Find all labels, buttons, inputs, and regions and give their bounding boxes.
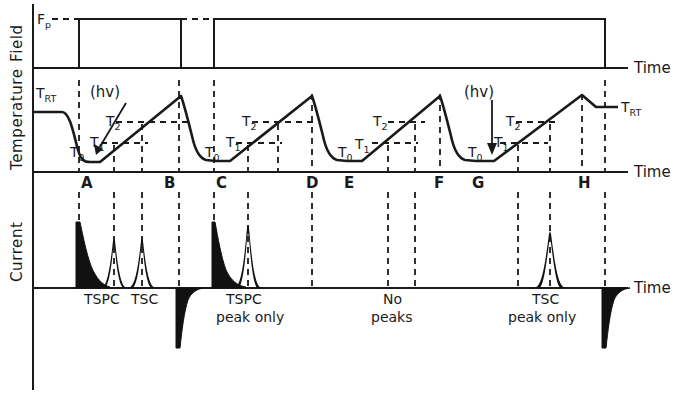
current-annotation-no-peaks-line2: peaks <box>371 309 412 325</box>
figure-root: Fp Time Field <box>0 0 696 396</box>
current-annotation-tspc-only-line1: TSPC <box>225 291 262 307</box>
temperature-symbol-t1-4: T1 <box>493 134 509 153</box>
stage-marker-g: G <box>472 174 484 192</box>
current-vertical-markers <box>79 192 605 288</box>
temperature-curve <box>33 95 618 162</box>
timing-diagram-svg: Fp Time Field <box>0 0 696 396</box>
temperature-trt-label-right: TRT <box>620 99 641 118</box>
field-axis-label: Field <box>8 24 26 62</box>
temperature-symbol-t1-2: T1 <box>225 134 241 153</box>
stage-marker-row: A B C D E F G H <box>81 174 591 192</box>
temperature-symbol-t1-3: T1 <box>354 136 370 155</box>
temperature-panel: (hv) (hv) TRT TRT T0 T1 T2 <box>8 68 671 181</box>
temperature-symbol-t0-1: T0 <box>69 144 85 163</box>
field-time-label: Time <box>633 59 671 77</box>
photon-label-2: (hv) <box>464 83 494 101</box>
current-spike-end <box>602 288 630 348</box>
field-fp-label: Fp <box>37 11 51 30</box>
temperature-symbol-t2-3: T2 <box>372 113 388 132</box>
stage-marker-b: B <box>164 174 175 192</box>
current-peak-a <box>76 222 110 288</box>
temperature-trt-label-left: TRT <box>35 85 56 104</box>
current-annotation-tsc-only-line1: TSC <box>531 291 559 307</box>
temperature-symbol-t2-2: T2 <box>241 113 257 132</box>
field-pulse-1 <box>79 19 181 68</box>
current-spike-b <box>176 288 204 348</box>
temperature-time-label: Time <box>633 163 671 181</box>
current-axis-label: Current <box>8 221 26 282</box>
photon-label-1: (hv) <box>90 83 120 101</box>
stage-marker-f: F <box>434 174 444 192</box>
stage-marker-e: E <box>344 174 354 192</box>
current-peak-tspc-2 <box>234 225 262 288</box>
field-pulse-2 <box>214 19 605 68</box>
current-annotation-tspc-1: TSPC <box>83 291 120 307</box>
temperature-symbol-t2-4: T2 <box>505 113 521 132</box>
field-panel: Fp Time Field <box>8 11 671 77</box>
current-panel: TSPC TSC TSPC peak only No peaks TSC pea… <box>8 192 671 348</box>
current-annotation-no-peaks-line1: No <box>383 291 402 307</box>
stage-marker-d: D <box>306 174 318 192</box>
current-time-label: Time <box>633 279 671 297</box>
current-annotation-tsc-only-line2: peak only <box>508 309 576 325</box>
stage-marker-h: H <box>578 174 591 192</box>
stage-marker-c: C <box>216 174 227 192</box>
current-annotation-tsc-1: TSC <box>130 291 158 307</box>
stage-marker-a: A <box>81 174 93 192</box>
current-annotation-tspc-only-line2: peak only <box>216 309 284 325</box>
temperature-axis-label: Temperature <box>8 68 26 171</box>
